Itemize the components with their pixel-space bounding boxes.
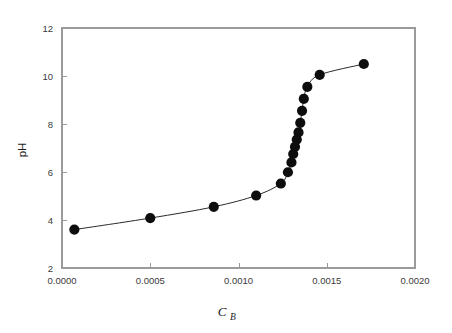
data-point (209, 202, 219, 212)
y-tick-label-4: 10 (42, 71, 53, 82)
x-tick-label-3: 0.0015 (312, 275, 341, 286)
chart-figure: 0.00000.00050.00100.00150.0020 24681012 … (0, 0, 452, 333)
x-axis-ticks (63, 263, 416, 268)
y-tick-label-1: 4 (48, 215, 53, 226)
data-point (69, 225, 79, 235)
x-axis-tick-labels: 0.00000.00050.00100.00150.0020 (47, 275, 429, 286)
data-point (286, 157, 296, 167)
data-point (283, 167, 293, 177)
y-axis-title: pH (16, 143, 28, 158)
x-tick-label-4: 0.0020 (400, 275, 429, 286)
x-tick-label-0: 0.0000 (47, 275, 76, 286)
y-axis-ticks (62, 29, 67, 269)
y-axis-tick-labels: 24681012 (42, 23, 53, 274)
data-series-line (74, 64, 363, 230)
data-point (295, 118, 305, 128)
data-point (299, 94, 309, 104)
data-series-markers (69, 59, 369, 235)
data-point (293, 127, 303, 137)
y-tick-label-3: 8 (48, 119, 53, 130)
y-tick-label-0: 2 (48, 263, 53, 274)
x-axis-title-subscript: B (230, 312, 236, 322)
x-tick-label-1: 0.0005 (136, 275, 165, 286)
data-point (276, 178, 286, 188)
data-point (315, 70, 325, 80)
data-point (145, 213, 155, 223)
x-tick-label-2: 0.0010 (224, 275, 253, 286)
x-axis-title-base: C (218, 304, 227, 319)
data-point (297, 106, 307, 116)
x-axis-title: C B (218, 304, 236, 322)
data-point (302, 82, 312, 92)
y-tick-label-5: 12 (42, 23, 53, 34)
y-tick-label-2: 6 (48, 167, 53, 178)
data-point (251, 190, 261, 200)
data-point (359, 59, 369, 69)
titration-curve-chart: 0.00000.00050.00100.00150.0020 24681012 … (0, 0, 452, 333)
